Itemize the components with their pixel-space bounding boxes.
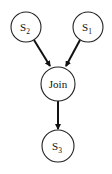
node-s1: S1 [73, 12, 103, 42]
dataflow-diagram: S2 S1 Join S3 [0, 0, 112, 174]
node-join-label: Join [49, 78, 68, 90]
node-join: Join [41, 67, 75, 101]
node-s3: S3 [42, 130, 74, 162]
edge-s2-to-join [34, 40, 50, 66]
node-s2: S2 [11, 12, 41, 42]
edge-s1-to-join [66, 40, 80, 66]
